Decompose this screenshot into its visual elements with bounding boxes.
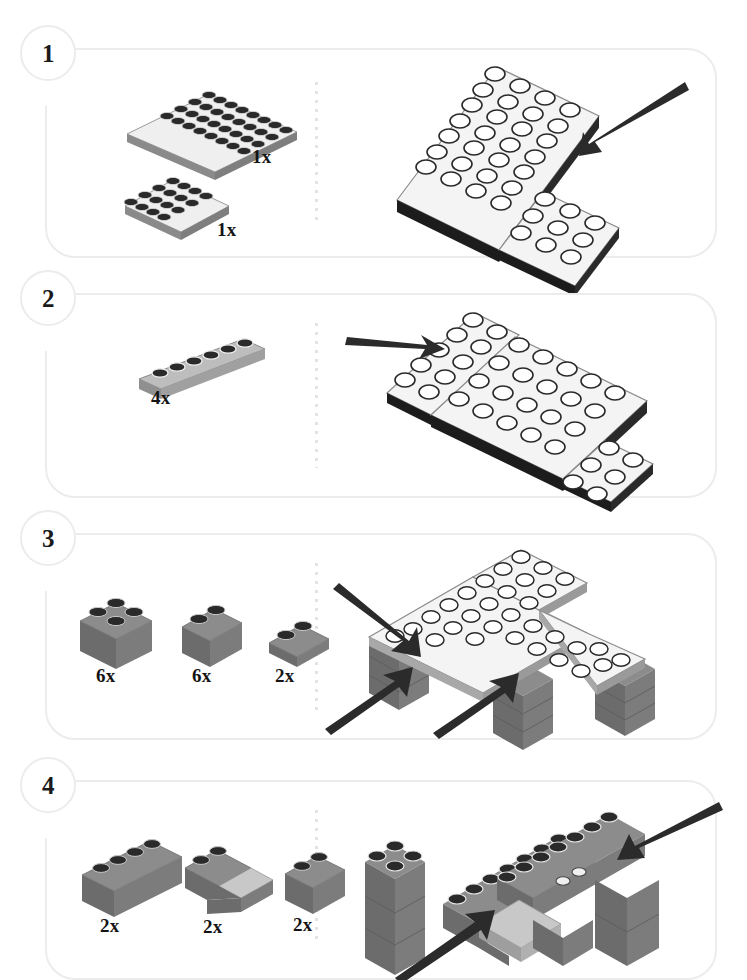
part-qty-3-1: 6x [96, 665, 116, 687]
step-panel-3: 3 6x [45, 533, 717, 740]
part-qty-3-3: 2x [275, 665, 295, 687]
assembly-1 [367, 60, 697, 250]
step-number-badge-3: 3 [20, 510, 76, 566]
leg-right-4 [595, 880, 659, 966]
part-brick-2x2: 6x [72, 593, 167, 673]
step-number-badge-1: 1 [20, 25, 76, 81]
part-qty-4-2: 2x [203, 916, 223, 938]
step-divider-1 [315, 82, 318, 222]
step-number-3: 3 [42, 526, 54, 551]
step-number-badge-2: 2 [20, 270, 76, 326]
part-qty-2-1: 4x [151, 387, 171, 409]
step-number-1: 1 [42, 41, 54, 66]
step-number-4: 4 [42, 773, 54, 798]
step-panel-1: 1 [45, 48, 717, 258]
part-qty-1-2: 1x [217, 219, 237, 241]
part-qty-4-3: 2x [293, 914, 313, 936]
step-divider-2 [315, 323, 318, 468]
step-number-badge-4: 4 [20, 757, 76, 813]
step-number-2: 2 [42, 286, 54, 311]
part-qty-4-1: 2x [100, 915, 120, 937]
assembly-4 [347, 786, 727, 966]
assembly-2 [347, 301, 707, 491]
part-qty-3-2: 6x [192, 665, 212, 687]
step-panel-4: 4 2x [45, 780, 717, 980]
part-slope-2x2: 2x [177, 838, 287, 923]
leg-left-4 [365, 841, 425, 975]
part-plate-1x6: 4x [125, 327, 285, 397]
part-brick-1x2: 6x [172, 597, 257, 675]
step-panel-2: 2 4x [45, 293, 717, 498]
part-plate-4x4: 1x [117, 162, 257, 237]
assembly-3 [325, 541, 715, 736]
leg-front-4 [533, 920, 593, 966]
part-plate-4x8: 1x [117, 86, 307, 166]
